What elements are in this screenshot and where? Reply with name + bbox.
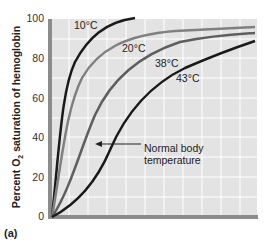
annotation-line-1: Normal body [144,142,204,154]
label-10c: 10°C [74,19,98,31]
chart-plot: 10°C 20°C 38°C 43°C [0,0,267,244]
x-axis [48,215,258,219]
y-axis [48,19,52,219]
annotation-line-2: temperature [144,154,204,166]
label-20c: 20°C [122,42,146,54]
annotation-normal-body-temperature: Normal body temperature [144,142,204,166]
label-38c: 38°C [155,57,179,69]
label-43c: 43°C [176,72,200,84]
panel-label: (a) [4,227,17,239]
